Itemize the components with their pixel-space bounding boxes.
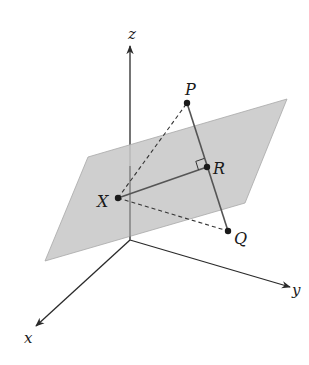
point-q [225, 228, 231, 234]
x-axis-label: x [24, 329, 33, 347]
point-x [115, 195, 121, 201]
point-label-q: Q [234, 229, 247, 248]
plane [45, 99, 287, 261]
point-r [204, 164, 210, 170]
point-label-r: R [212, 159, 225, 178]
y-axis-label: y [291, 281, 301, 299]
point-label-p: P [184, 80, 196, 99]
plane-distance-diagram: z x y P R X Q [0, 0, 309, 365]
z-axis-label: z [127, 25, 136, 43]
point-label-x: X [95, 192, 109, 211]
y-axis [130, 240, 290, 287]
point-p [184, 100, 190, 106]
